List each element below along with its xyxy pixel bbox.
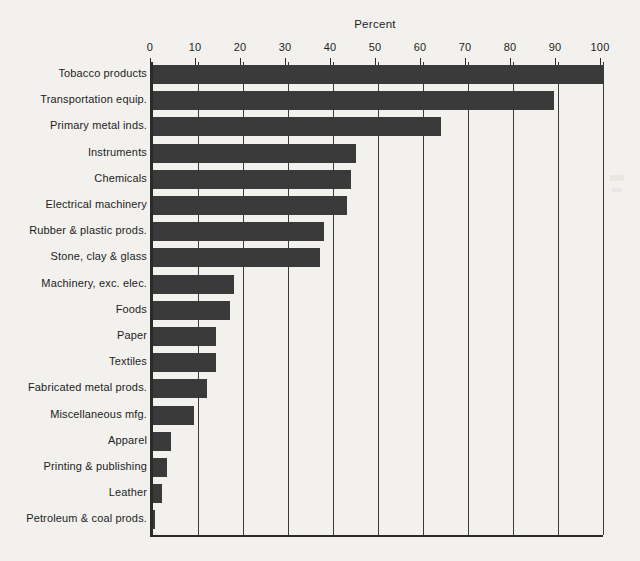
gridline-70 (468, 62, 469, 535)
bar (153, 432, 171, 451)
paper-speck (612, 188, 622, 192)
category-label: Rubber & plastic prods. (0, 224, 147, 236)
bar (153, 510, 155, 529)
x-tick-label-70: 70 (459, 41, 472, 53)
x-tick-label-0: 0 (147, 41, 153, 53)
category-label: Fabricated metal prods. (0, 381, 147, 393)
x-tick-label-100: 100 (591, 41, 610, 53)
x-tick-label-40: 40 (324, 41, 337, 53)
category-label: Primary metal inds. (0, 119, 147, 131)
bar (153, 248, 320, 267)
paper-speck (610, 175, 624, 181)
bar-chart: Percent 0102030405060708090100 Tobacco p… (0, 0, 640, 561)
category-label: Transportation equip. (0, 93, 147, 105)
category-label: Stone, clay & glass (0, 250, 147, 262)
category-label: Apparel (0, 434, 147, 446)
category-label: Petroleum & coal prods. (0, 512, 147, 524)
category-label: Chemicals (0, 172, 147, 184)
bar (153, 275, 234, 294)
category-label: Tobacco products (0, 67, 147, 79)
gridline-90 (558, 62, 559, 535)
category-label: Paper (0, 329, 147, 341)
bar (153, 196, 347, 215)
x-tick-label-60: 60 (414, 41, 427, 53)
bar (153, 91, 554, 110)
category-label: Printing & publishing (0, 460, 147, 472)
category-label: Textiles (0, 355, 147, 367)
category-label: Foods (0, 303, 147, 315)
bar (153, 301, 230, 320)
bar (153, 65, 603, 84)
x-tick-label-20: 20 (234, 41, 247, 53)
category-label: Electrical machinery (0, 198, 147, 210)
plot-right-border (603, 62, 604, 535)
bar (153, 353, 216, 372)
bar (153, 379, 207, 398)
x-tick-label-90: 90 (549, 41, 562, 53)
bar (153, 458, 167, 477)
plot-area (150, 62, 603, 537)
bar (153, 406, 194, 425)
bar (153, 484, 162, 503)
bar (153, 117, 441, 136)
category-label: Miscellaneous mfg. (0, 408, 147, 420)
bar (153, 144, 356, 163)
bar (153, 222, 324, 241)
gridline-80 (513, 62, 514, 535)
bar (153, 327, 216, 346)
category-label: Instruments (0, 146, 147, 158)
x-tick-label-10: 10 (189, 41, 202, 53)
x-tick-label-50: 50 (369, 41, 382, 53)
chart-axis-title: Percent (354, 18, 396, 30)
category-label: Leather (0, 486, 147, 498)
x-tick-label-80: 80 (504, 41, 517, 53)
category-label: Machinery, exc. elec. (0, 277, 147, 289)
x-tick-label-30: 30 (279, 41, 292, 53)
bar (153, 170, 351, 189)
